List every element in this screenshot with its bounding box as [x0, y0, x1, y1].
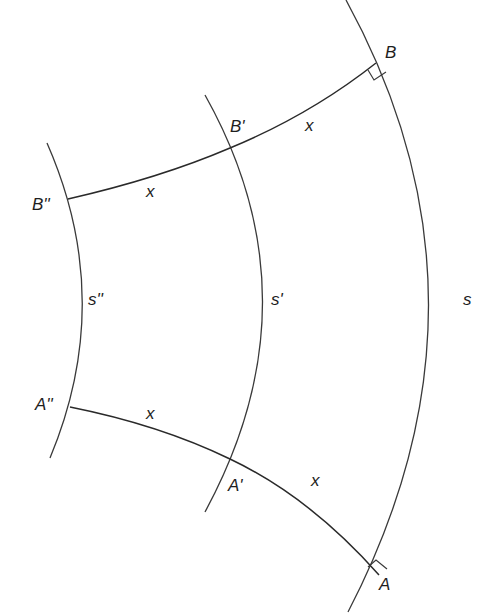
label-point-a-double-prime: A'' — [34, 395, 54, 414]
label-point-b-double-prime: B'' — [32, 195, 51, 214]
label-point-b-prime: B' — [230, 117, 245, 136]
label-point-a-prime: A' — [227, 476, 243, 495]
label-point-a: A — [378, 575, 390, 594]
label-segment-x-top-left: x — [145, 182, 155, 201]
label-point-b: B — [385, 43, 396, 62]
geodesic-top — [68, 63, 376, 199]
curve-s — [346, 0, 429, 612]
label-curve-s-prime: s' — [271, 290, 284, 309]
geodesic-bottom — [70, 407, 379, 575]
label-curve-s-double-prime: s'' — [88, 290, 104, 309]
label-segment-x-top-right: x — [304, 116, 314, 135]
label-curve-s: s — [463, 290, 472, 309]
right-angle-marker-a — [368, 560, 387, 569]
diagram-canvas: B B' B'' A'' A' A s s' s'' x x x x — [0, 0, 499, 614]
label-segment-x-bottom-right: x — [310, 471, 320, 490]
curve-s-prime — [205, 95, 263, 512]
label-segment-x-bottom-left: x — [145, 404, 155, 423]
